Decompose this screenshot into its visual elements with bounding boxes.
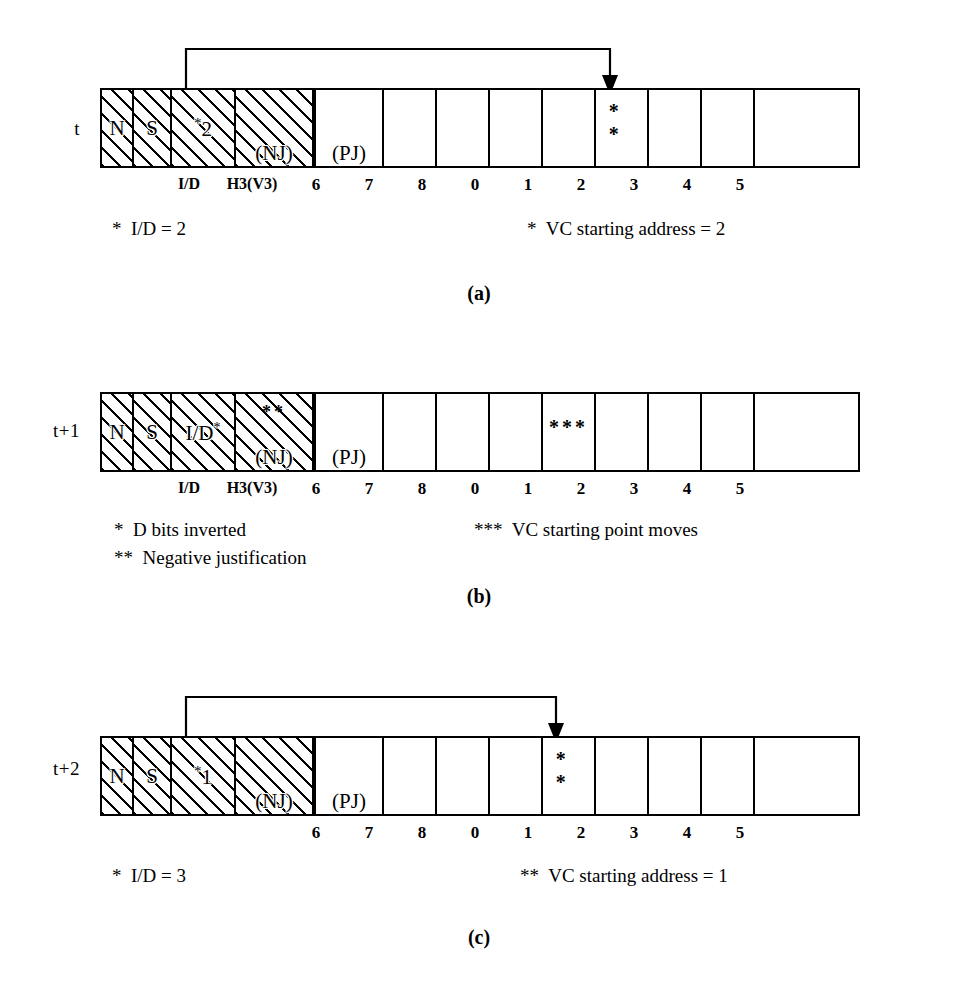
cell-c-s: S — [134, 738, 172, 814]
cell-c-id: *1 — [172, 738, 236, 814]
axis-b-3: 0 — [455, 479, 495, 499]
cell-a-h3v3: (NJ) — [236, 90, 316, 166]
cell-a-s-label: S — [146, 118, 158, 139]
caption-c-right: ** VC starting address = 1 — [520, 862, 728, 890]
caption-a-right: * VC starting address = 2 — [527, 215, 725, 243]
axis-a-8: 5 — [720, 175, 760, 195]
axis-b-2: 8 — [402, 479, 442, 499]
axis-c-4: 1 — [508, 823, 548, 843]
time-label-c: t+2 — [4, 758, 80, 780]
cell-a-id-value: 2 — [202, 117, 213, 141]
cell-c-s-label: S — [146, 766, 158, 787]
axis-b-1: 7 — [349, 479, 389, 499]
panel-tag-c: (c) — [419, 926, 539, 949]
caption-b-left: * D bits inverted ** Negative justificat… — [114, 516, 307, 571]
cell-a-p5 — [649, 90, 702, 166]
cell-b-n-label: N — [109, 422, 124, 443]
cell-b-p7 — [755, 394, 806, 470]
axis-b-8: 5 — [720, 479, 760, 499]
cell-c-nj-label: (NJ) — [255, 791, 292, 812]
cell-b-p3: *** — [543, 394, 596, 470]
panel-tag-a: (a) — [419, 282, 539, 305]
cell-a-p4: * * — [596, 90, 649, 166]
axis-b-id: I/D — [166, 479, 212, 497]
cell-a-p7 — [755, 90, 806, 166]
axis-c-3: 0 — [455, 823, 495, 843]
cell-c-pj: (PJ) — [316, 738, 384, 814]
cell-b-s-label: S — [146, 422, 158, 443]
cell-a-pj-label: (PJ) — [332, 143, 366, 164]
axis-c-8: 5 — [720, 823, 760, 843]
axis-a-3: 0 — [455, 175, 495, 195]
cell-b-nj-stars: ** — [262, 402, 286, 423]
cell-b-p4 — [596, 394, 649, 470]
cell-a-n-label: N — [109, 118, 124, 139]
axis-c-5: 2 — [561, 823, 601, 843]
axis-c-1: 7 — [349, 823, 389, 843]
cell-a-id: *2 — [172, 90, 236, 166]
frame-b: N S I/D* ** (NJ) (PJ) *** — [100, 392, 860, 472]
cell-b-id-value: I/D — [186, 421, 214, 445]
axis-a-id: I/D — [166, 175, 212, 193]
axis-b-7: 4 — [667, 479, 707, 499]
axis-a-6: 3 — [614, 175, 654, 195]
cell-b-n: N — [102, 394, 134, 470]
time-label-b: t+1 — [4, 420, 80, 442]
cell-b-p1 — [437, 394, 490, 470]
cell-c-p1 — [437, 738, 490, 814]
cell-a-p0 — [384, 90, 437, 166]
cell-a-p3 — [543, 90, 596, 166]
axis-b-0: 6 — [296, 479, 336, 499]
cell-c-p6 — [702, 738, 755, 814]
axis-a-2: 8 — [402, 175, 442, 195]
pointer-arrow-a — [0, 0, 959, 100]
cell-a-p1 — [437, 90, 490, 166]
cell-c-id-label: *1 — [194, 764, 212, 788]
cell-b-s: S — [134, 394, 172, 470]
axis-a-h3v3: H3(V3) — [212, 175, 292, 193]
cell-a-nj-label: (NJ) — [255, 143, 292, 164]
axis-b-6: 3 — [614, 479, 654, 499]
cell-a-p2 — [490, 90, 543, 166]
cell-c-id-value: 1 — [202, 765, 213, 789]
cell-a-p6 — [702, 90, 755, 166]
cell-b-p2 — [490, 394, 543, 470]
cell-b-p6 — [702, 394, 755, 470]
cell-b-pj: (PJ) — [316, 394, 384, 470]
axis-c-2: 8 — [402, 823, 442, 843]
caption-c-left: * I/D = 3 — [112, 862, 186, 890]
cell-c-id-star: * — [194, 763, 202, 779]
cell-c-marker: * * — [556, 748, 582, 794]
cell-c-h3v3: (NJ) — [236, 738, 316, 814]
cell-a-marker: * * — [609, 100, 635, 146]
cell-b-pj-label: (PJ) — [332, 447, 366, 468]
cell-b-id: I/D* — [172, 394, 236, 470]
axis-c-6: 3 — [614, 823, 654, 843]
cell-c-p0 — [384, 738, 437, 814]
cell-b-id-label: I/D* — [186, 421, 221, 444]
frame-a: N S *2 (NJ) (PJ) * * — [100, 88, 860, 168]
axis-b-5: 2 — [561, 479, 601, 499]
time-label-a: t — [20, 118, 80, 140]
cell-b-marker: *** — [549, 416, 588, 439]
cell-b-p5 — [649, 394, 702, 470]
cell-c-n: N — [102, 738, 134, 814]
axis-c-0: 6 — [296, 823, 336, 843]
axis-a-4: 1 — [508, 175, 548, 195]
axis-c-7: 4 — [667, 823, 707, 843]
panel-tag-b: (b) — [419, 585, 539, 608]
pointer-arrow-c — [0, 640, 959, 750]
cell-a-n: N — [102, 90, 134, 166]
cell-c-p2 — [490, 738, 543, 814]
caption-a-left: * I/D = 2 — [112, 215, 186, 243]
axis-a-5: 2 — [561, 175, 601, 195]
cell-c-p5 — [649, 738, 702, 814]
cell-a-s: S — [134, 90, 172, 166]
axis-a-7: 4 — [667, 175, 707, 195]
axis-a-0: 6 — [296, 175, 336, 195]
cell-b-p0 — [384, 394, 437, 470]
caption-b-right: *** VC starting point moves — [474, 516, 698, 544]
cell-c-p3: * * — [543, 738, 596, 814]
cell-b-h3v3: ** (NJ) — [236, 394, 316, 470]
cell-b-id-star: * — [214, 420, 221, 435]
